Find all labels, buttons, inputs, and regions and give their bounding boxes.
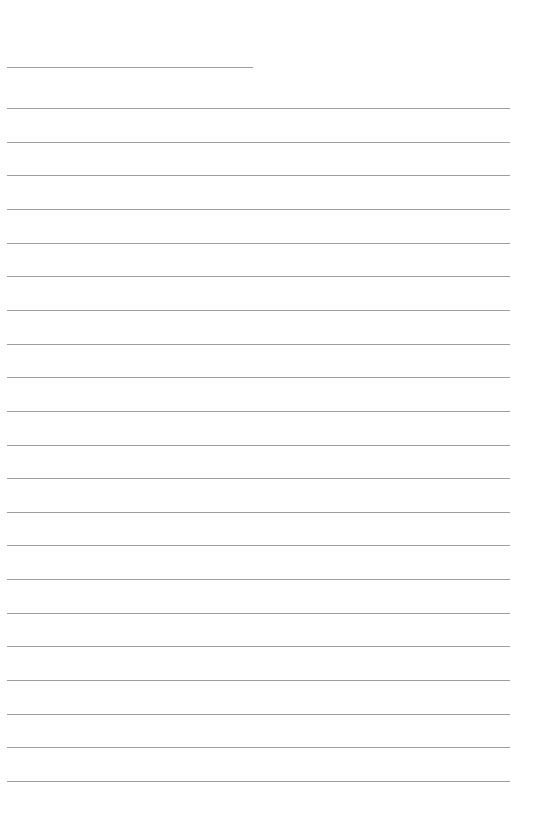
ruled-line xyxy=(7,310,510,311)
ruled-line xyxy=(7,512,510,513)
ruled-line xyxy=(7,747,510,748)
ruled-line xyxy=(7,646,510,647)
ruled-line xyxy=(7,445,510,446)
ruled-line xyxy=(7,142,510,143)
ruled-line xyxy=(7,579,510,580)
ruled-line xyxy=(7,680,510,681)
ruled-line xyxy=(7,411,510,412)
ruled-line xyxy=(7,714,510,715)
ruled-line xyxy=(7,108,510,109)
ruled-line xyxy=(7,276,510,277)
ruled-line xyxy=(7,377,510,378)
lined-paper-page xyxy=(0,0,534,821)
ruled-line xyxy=(7,209,510,210)
ruled-line xyxy=(7,781,510,782)
ruled-line xyxy=(7,243,510,244)
ruled-line xyxy=(7,613,510,614)
ruled-line xyxy=(7,175,510,176)
header-line xyxy=(7,67,253,68)
ruled-line xyxy=(7,545,510,546)
ruled-line xyxy=(7,478,510,479)
ruled-line xyxy=(7,344,510,345)
